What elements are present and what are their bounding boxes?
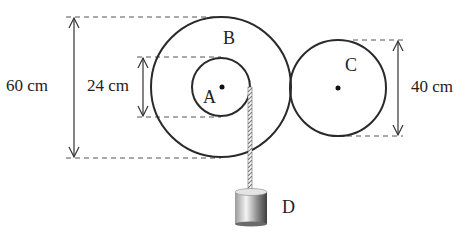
pulley-b-label: B: [223, 28, 235, 49]
rope: [248, 87, 252, 190]
b-diameter-label: 60 cm: [6, 76, 48, 96]
pulley-a-label: A: [203, 87, 216, 108]
weight-d-label: D: [282, 197, 295, 218]
axle-c-dot: [336, 86, 341, 91]
weight-d-cylinder: [235, 189, 267, 227]
pulley-c-label: C: [345, 55, 357, 76]
a-diameter-label: 24 cm: [87, 76, 129, 96]
axle-ab-dot: [220, 85, 225, 90]
c-diameter-label: 40 cm: [411, 77, 453, 97]
